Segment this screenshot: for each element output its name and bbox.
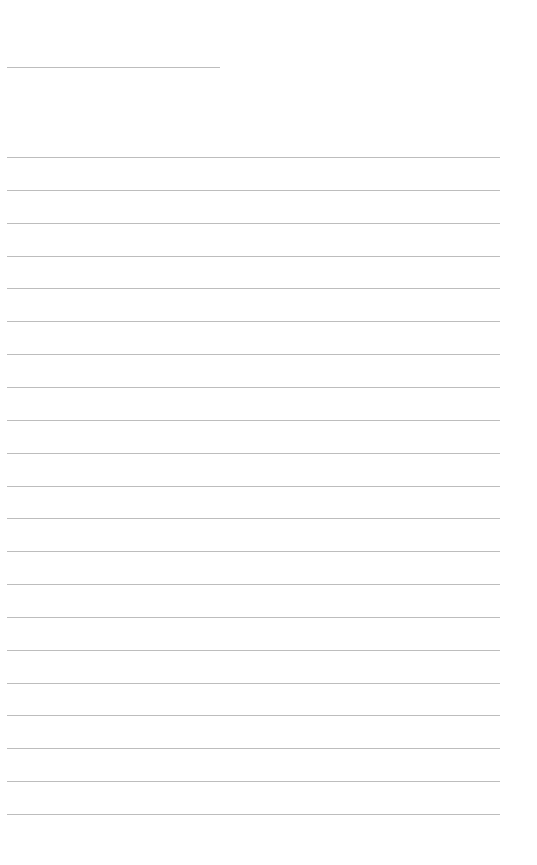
ruled-line — [7, 387, 500, 388]
ruled-line — [7, 190, 500, 191]
ruled-line — [7, 715, 500, 716]
ruled-line — [7, 584, 500, 585]
ruled-line — [7, 748, 500, 749]
ruled-line — [7, 814, 500, 815]
ruled-line — [7, 683, 500, 684]
title-line — [7, 67, 220, 68]
ruled-line — [7, 518, 500, 519]
ruled-line — [7, 288, 500, 289]
ruled-line — [7, 650, 500, 651]
ruled-line — [7, 486, 500, 487]
ruled-line — [7, 157, 500, 158]
ruled-line — [7, 354, 500, 355]
ruled-line — [7, 256, 500, 257]
ruled-line — [7, 781, 500, 782]
ruled-line — [7, 453, 500, 454]
ruled-line — [7, 321, 500, 322]
ruled-line — [7, 551, 500, 552]
ruled-line — [7, 420, 500, 421]
ruled-line — [7, 223, 500, 224]
ruled-line — [7, 617, 500, 618]
